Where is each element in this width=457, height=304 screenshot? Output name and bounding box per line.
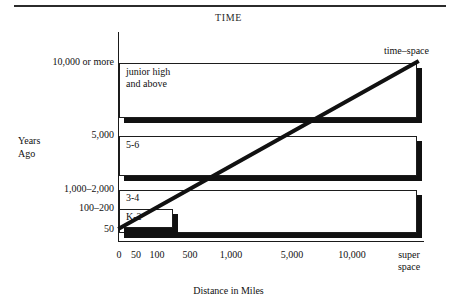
x-tick-space: space: [398, 261, 420, 272]
y-axis-title: Years Ago: [18, 134, 40, 160]
x-axis-title: Distance in Miles: [0, 285, 457, 296]
x-tick-0: 0: [117, 249, 122, 260]
time-space-annotation: time–space: [384, 45, 429, 56]
y-axis-title-line2: Ago: [18, 147, 40, 160]
x-tick-10000: 10,000: [338, 249, 366, 260]
chart-title: TIME: [0, 12, 457, 23]
x-tick-100: 100: [150, 249, 165, 260]
x-axis-line: [118, 241, 424, 242]
bar-label-k-2: K-2: [126, 211, 142, 223]
bar-label-5-6: 5-6: [126, 139, 139, 151]
bar-label-3-4: 3-4: [126, 192, 139, 204]
top-divider-rule: [14, 5, 446, 7]
bar-label-junior-high-line1: junior high: [126, 66, 170, 78]
x-tick-500: 500: [183, 249, 198, 260]
bar-5-6: [119, 136, 417, 176]
x-tick-1000: 1,000: [220, 249, 243, 260]
figure-container: TIME 10,000 or more 5,000 1,000–2,000 10…: [0, 0, 457, 304]
x-tick-50: 50: [131, 249, 141, 260]
y-axis-title-line1: Years: [18, 134, 40, 147]
x-tick-5000: 5,000: [281, 249, 304, 260]
bar-label-junior-high-line2: and above: [126, 78, 167, 90]
x-tick-super: super: [398, 249, 420, 260]
